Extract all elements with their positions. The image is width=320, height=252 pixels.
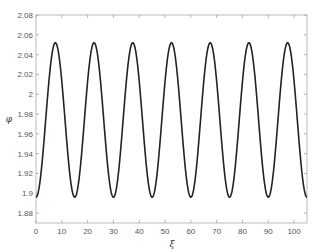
y-tick-label: 1.98 [17, 110, 33, 119]
x-tick-label: 0 [34, 227, 39, 236]
x-tick-label: 60 [186, 227, 195, 236]
y-tick-label: 2 [29, 90, 34, 99]
x-axis-label: ξ [170, 239, 176, 249]
y-axis-label: φ [6, 114, 13, 124]
x-tick-label: 30 [109, 227, 118, 236]
x-tick-label: 20 [83, 227, 92, 236]
y-tick-label: 2.06 [17, 31, 33, 40]
x-tick-label: 100 [287, 227, 301, 236]
line-chart: 0102030405060708090100 1.881.91.921.941.… [0, 0, 320, 252]
y-tick-label: 2.04 [17, 51, 33, 60]
y-tick-label: 1.96 [17, 130, 33, 139]
x-tick-label: 80 [238, 227, 247, 236]
x-tick-label: 90 [264, 227, 273, 236]
y-tick-label: 1.88 [17, 209, 33, 218]
y-tick-label: 1.94 [17, 150, 33, 159]
y-tick-label: 2.08 [17, 11, 33, 20]
x-tick-label: 10 [57, 227, 66, 236]
x-tick-label: 50 [161, 227, 170, 236]
y-tick-label: 2.02 [17, 70, 33, 79]
x-tick-label: 40 [135, 227, 144, 236]
y-tick-label: 1.92 [17, 169, 33, 178]
y-tick-label: 1.9 [22, 189, 34, 198]
x-tick-label: 70 [212, 227, 221, 236]
